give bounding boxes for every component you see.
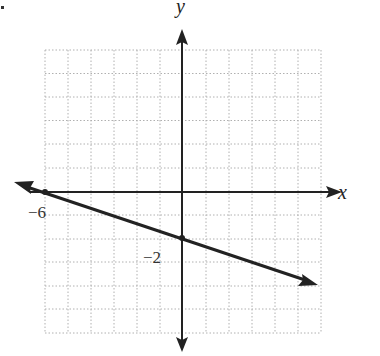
stray-dot bbox=[1, 6, 4, 9]
y-intercept-label: −2 bbox=[143, 248, 161, 267]
plotted-line bbox=[14, 181, 318, 286]
y-intercept-point bbox=[179, 235, 185, 241]
x-axis bbox=[30, 186, 342, 198]
x-intercept-point bbox=[42, 189, 48, 195]
y-axis bbox=[176, 29, 188, 352]
x-axis-label: x bbox=[337, 181, 347, 203]
y-axis-label: y bbox=[174, 0, 185, 18]
x-intercept-label: −6 bbox=[28, 203, 46, 222]
coordinate-plane: x y −6 −2 bbox=[0, 0, 380, 356]
